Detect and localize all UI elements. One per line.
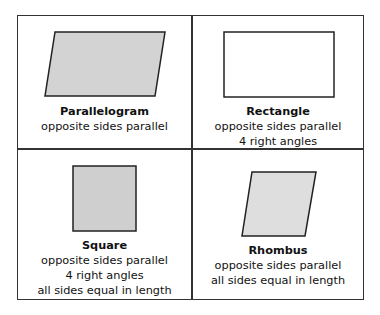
rectangle-property: opposite sides parallel xyxy=(192,119,364,134)
square-caption: Square opposite sides parallel 4 right a… xyxy=(17,238,192,298)
square-title: Square xyxy=(17,238,192,253)
rhombus-property: all sides equal in length xyxy=(192,273,364,288)
square-property: 4 right angles xyxy=(17,268,192,283)
parallelogram-caption: Parallelogram opposite sides parallel xyxy=(17,104,192,134)
rectangle-property: 4 right angles xyxy=(192,134,364,149)
rectangle-caption: Rectangle opposite sides parallel 4 righ… xyxy=(192,104,364,149)
rhombus-caption: Rhombus opposite sides parallel all side… xyxy=(192,243,364,288)
rectangle-shape xyxy=(224,32,334,97)
parallelogram-property: opposite sides parallel xyxy=(17,119,192,134)
square-shape xyxy=(73,166,136,231)
rhombus-shape xyxy=(242,172,316,236)
rhombus-property: opposite sides parallel xyxy=(192,258,364,273)
rectangle-title: Rectangle xyxy=(192,104,364,119)
rhombus-title: Rhombus xyxy=(192,243,364,258)
parallelogram-shape xyxy=(45,32,165,96)
parallelogram-title: Parallelogram xyxy=(17,104,192,119)
square-property: opposite sides parallel xyxy=(17,253,192,268)
square-property: all sides equal in length xyxy=(17,283,192,298)
